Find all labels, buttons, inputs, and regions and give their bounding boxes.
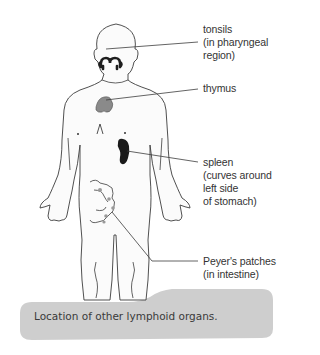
head [40,24,190,300]
thymus-label: thymus [203,82,236,95]
peyers-patches-label: Peyer's patches (in intestine) [203,255,276,281]
diagram-caption: Location of other lymphoid organs. [34,310,218,322]
spleen-label: spleen (curves around left side of stoma… [203,156,272,208]
chest-dot-left [77,133,79,135]
tonsils-label: tonsils (in pharyngeal region) [203,23,268,62]
body-outline [40,24,190,300]
chest-dot-right [124,132,126,134]
